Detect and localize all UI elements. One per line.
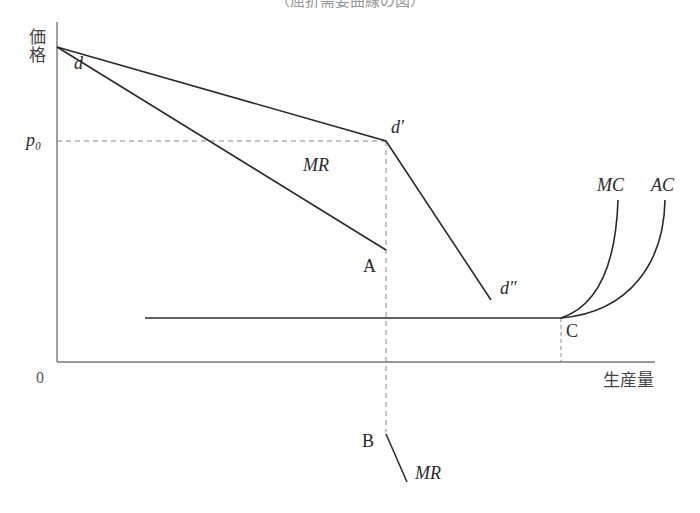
demand-curve	[57, 47, 491, 300]
kinked-demand-diagram	[0, 0, 700, 513]
demand-d-label: d	[74, 54, 83, 72]
ac-curve	[561, 200, 665, 318]
mr-upper-label: MR	[303, 156, 329, 174]
y-axis-label: 価格	[27, 28, 44, 64]
point-a-label: A	[363, 257, 376, 275]
mr-lower-segment	[386, 434, 407, 482]
mc-curve	[561, 200, 618, 318]
mr-upper-segment	[57, 47, 386, 250]
p0-label: p₀	[26, 131, 41, 149]
x-axis-label: 生産量	[603, 372, 654, 389]
point-c-label: C	[566, 322, 578, 340]
demand-kink-label: d′	[391, 118, 404, 136]
mr-lower-label: MR	[415, 464, 441, 482]
demand-d-double-prime-label: d″	[500, 279, 517, 297]
origin-label: 0	[36, 370, 44, 386]
point-b-label: B	[362, 432, 374, 450]
mc-label: MC	[597, 176, 624, 194]
ac-label: AC	[651, 176, 674, 194]
